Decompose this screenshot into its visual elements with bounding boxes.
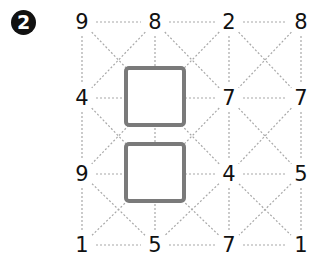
node-r1-c0: 4: [67, 83, 97, 113]
puzzle-number-badge: 2: [11, 10, 36, 35]
answer-box-r1-c1[interactable]: [124, 66, 186, 127]
node-r3-c0: 1: [67, 230, 97, 259]
node-r3-c1: 5: [140, 230, 170, 259]
dashed-connector-lines: [0, 0, 312, 259]
node-r0-c2: 2: [214, 7, 244, 37]
node-r0-c1: 8: [140, 7, 170, 37]
node-r3-c3: 1: [286, 230, 312, 259]
node-r1-c2: 7: [214, 83, 244, 113]
puzzle-diagram: 2 9 8 2 8 4 7 7 9 4 5 1 5 7 1: [0, 0, 312, 259]
node-r2-c3: 5: [286, 159, 312, 189]
dashed-line: [239, 184, 291, 235]
node-r2-c2: 4: [214, 159, 244, 189]
node-r3-c2: 7: [214, 230, 244, 259]
node-r2-c0: 9: [67, 159, 97, 189]
node-r0-c0: 9: [67, 7, 97, 37]
node-r1-c3: 7: [286, 83, 312, 113]
node-r0-c3: 8: [286, 7, 312, 37]
answer-box-r2-c1[interactable]: [124, 142, 186, 203]
